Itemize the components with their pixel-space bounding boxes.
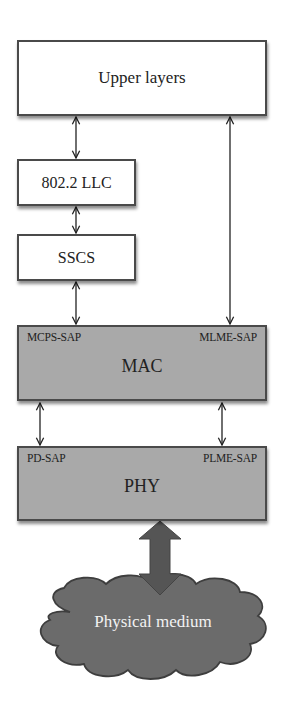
llc-box: 802.2 LLC bbox=[17, 159, 136, 206]
pd-sap-label: PD-SAP bbox=[27, 452, 65, 464]
mcps-sap-label: MCPS-SAP bbox=[27, 331, 81, 343]
phy-label: PHY bbox=[124, 476, 160, 497]
upper-layers-label: Upper layers bbox=[98, 68, 185, 88]
sscs-box: SSCS bbox=[17, 234, 136, 281]
llc-label: 802.2 LLC bbox=[41, 174, 111, 192]
physical-medium-label: Physical medium bbox=[38, 612, 268, 632]
plme-sap-label: PLME-SAP bbox=[203, 452, 257, 464]
phy-box: PD-SAP PLME-SAP PHY bbox=[17, 446, 267, 521]
mac-label: MAC bbox=[121, 356, 162, 377]
upper-layers-box: Upper layers bbox=[17, 40, 267, 116]
thick-arrow-phy-medium bbox=[139, 521, 181, 595]
mac-box: MCPS-SAP MLME-SAP MAC bbox=[17, 325, 267, 401]
sscs-label: SSCS bbox=[58, 249, 95, 267]
mlme-sap-label: MLME-SAP bbox=[199, 331, 257, 343]
